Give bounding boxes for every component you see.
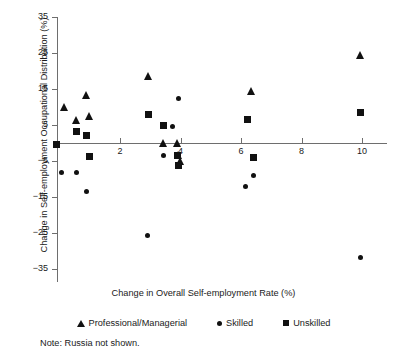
x-tick-mark: [362, 138, 363, 144]
circle-marker-icon: [217, 321, 222, 326]
y-tick-label: −5: [8, 155, 48, 165]
y-tick-label: 5: [8, 119, 48, 129]
data-point-triangle: [356, 51, 364, 59]
data-point-square: [250, 154, 257, 161]
data-point-circle: [170, 124, 175, 129]
y-tick-label: 15: [8, 83, 48, 93]
x-axis-line: [57, 143, 387, 144]
scatter-plot: Change in Self-employment Occupational D…: [0, 0, 407, 362]
legend: Professional/ManagerialSkilledUnskilled: [0, 318, 407, 328]
y-tick-mark: [52, 197, 58, 198]
data-point-triangle: [60, 103, 68, 111]
data-point-square: [244, 116, 251, 123]
data-point-square: [83, 132, 90, 139]
legend-item[interactable]: Unskilled: [283, 318, 330, 328]
data-point-square: [175, 162, 182, 169]
triangle-marker-icon: [77, 320, 85, 327]
y-tick-mark: [52, 161, 58, 162]
data-point-square: [357, 109, 364, 116]
y-tick-mark: [52, 125, 58, 126]
data-point-square: [86, 153, 93, 160]
data-point-square: [145, 111, 152, 118]
data-point-square: [160, 122, 167, 129]
y-axis-line: [57, 17, 58, 282]
data-point-circle: [251, 173, 256, 178]
y-tick-mark: [52, 233, 58, 234]
data-point-circle: [59, 170, 64, 175]
x-tick-label: 2: [108, 146, 132, 156]
x-axis-title: Change in Overall Self-employment Rate (…: [0, 288, 407, 298]
data-point-triangle: [72, 116, 80, 124]
x-tick-mark: [302, 138, 303, 144]
y-tick-mark: [52, 89, 58, 90]
data-point-triangle: [85, 112, 93, 120]
data-point-square: [53, 141, 60, 148]
y-axis-title: Change in Self-employment Occupational D…: [39, 5, 49, 265]
data-point-circle: [176, 96, 181, 101]
data-point-square: [73, 128, 80, 135]
data-point-circle: [358, 255, 363, 260]
y-tick-mark: [52, 269, 58, 270]
data-point-triangle: [173, 139, 181, 147]
data-point-triangle: [82, 91, 90, 99]
data-point-triangle: [247, 87, 255, 95]
data-point-triangle: [159, 139, 167, 147]
square-marker-icon: [283, 320, 289, 326]
data-point-circle: [74, 170, 79, 175]
legend-item[interactable]: Skilled: [217, 318, 253, 328]
x-tick-mark: [241, 138, 242, 144]
legend-label: Professional/Managerial: [89, 318, 188, 328]
y-tick-mark: [52, 17, 58, 18]
x-tick-label: 8: [290, 146, 314, 156]
y-tick-label: −25: [8, 227, 48, 237]
y-tick-label: 35: [8, 11, 48, 21]
x-tick-label: 10: [350, 146, 374, 156]
y-tick-label: −15: [8, 191, 48, 201]
legend-label: Skilled: [226, 318, 253, 328]
data-point-triangle: [144, 72, 152, 80]
data-point-circle: [161, 153, 166, 158]
data-point-circle: [145, 233, 150, 238]
data-point-circle: [243, 184, 248, 189]
x-tick-mark: [120, 138, 121, 144]
data-point-circle: [84, 189, 89, 194]
legend-label: Unskilled: [293, 318, 330, 328]
y-tick-mark: [52, 53, 58, 54]
y-tick-label: 25: [8, 47, 48, 57]
data-point-square: [174, 152, 181, 159]
legend-item[interactable]: Professional/Managerial: [77, 318, 188, 328]
chart-note: Note: Russia not shown.: [40, 338, 140, 348]
y-tick-label: −35: [8, 263, 48, 273]
